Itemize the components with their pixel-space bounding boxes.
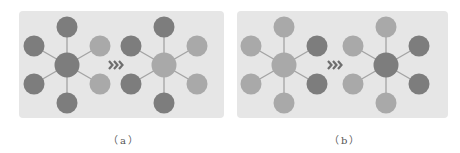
node-center (374, 53, 399, 78)
node-lower_left (241, 74, 262, 95)
node-center (55, 53, 80, 78)
node-upper_right (307, 36, 328, 57)
node-upper_left (24, 36, 45, 57)
node-bottom (274, 93, 295, 114)
node-upper_left (241, 36, 262, 57)
node-upper_right (90, 36, 111, 57)
star-graph-b-2 (343, 17, 430, 114)
node-top (274, 17, 295, 38)
node-center (152, 53, 177, 78)
triple-chevron-right-icon (328, 61, 342, 69)
node-top (376, 17, 397, 38)
node-lower_left (24, 74, 45, 95)
node-top (154, 17, 175, 38)
star-graph-a-1 (24, 17, 111, 114)
caption-a: （a） (108, 132, 140, 147)
star-graph-diagram (0, 0, 460, 153)
node-lower_right (187, 74, 208, 95)
star-graph-a-2 (121, 17, 208, 114)
node-center (272, 53, 297, 78)
node-lower_right (409, 74, 430, 95)
triple-chevron-right-icon (109, 61, 123, 69)
node-upper_right (409, 36, 430, 57)
node-top (57, 17, 78, 38)
star-graph-b-1 (241, 17, 328, 114)
node-upper_left (343, 36, 364, 57)
node-bottom (57, 93, 78, 114)
node-upper_left (121, 36, 142, 57)
node-lower_left (121, 74, 142, 95)
node-bottom (376, 93, 397, 114)
node-bottom (154, 93, 175, 114)
node-upper_right (187, 36, 208, 57)
node-lower_left (343, 74, 364, 95)
caption-b: （b） (329, 132, 361, 147)
node-lower_right (90, 74, 111, 95)
node-lower_right (307, 74, 328, 95)
